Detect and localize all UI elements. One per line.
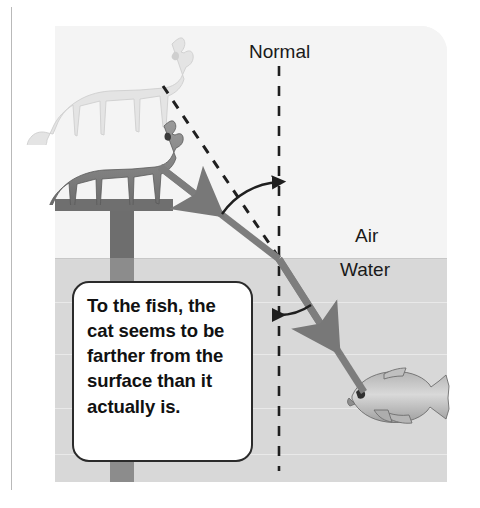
refraction-figure: Normal Air Water To the fish, the cat se…: [0, 0, 480, 508]
normal-label: Normal: [249, 41, 310, 63]
callout-text: To the fish, the cat seems to be farther…: [87, 293, 245, 419]
real-cat: [22, 120, 187, 205]
air-label: Air: [355, 225, 378, 247]
fish: [344, 362, 456, 428]
water-label: Water: [340, 259, 390, 281]
page-margin-rule: [11, 7, 12, 490]
callout-box: To the fish, the cat seems to be farther…: [72, 281, 253, 462]
